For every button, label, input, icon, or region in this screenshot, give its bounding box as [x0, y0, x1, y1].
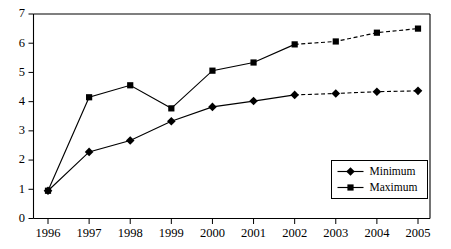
- y-tick-label: 4: [19, 94, 26, 108]
- data-point-marker-square: [292, 41, 298, 47]
- x-tick-label: 2003: [323, 226, 348, 240]
- legend-label: Minimum: [370, 165, 416, 177]
- y-tick-label: 2: [19, 152, 25, 166]
- x-tick-label: 2001: [241, 226, 266, 240]
- data-point-marker-square: [374, 30, 380, 36]
- data-point-marker-square: [86, 94, 92, 100]
- y-tick-label: 0: [19, 211, 25, 225]
- y-tick-label: 7: [19, 6, 25, 20]
- x-tick-label: 2002: [282, 226, 307, 240]
- data-point-marker-square: [168, 105, 174, 111]
- x-tick-label: 1999: [159, 226, 184, 240]
- y-tick-label: 5: [19, 65, 25, 79]
- chart-canvas: 01234567 1996199719981999200020012002200…: [0, 0, 451, 249]
- x-tick-label: 1997: [77, 226, 102, 240]
- data-point-marker-square: [209, 68, 215, 74]
- line-chart: 01234567 1996199719981999200020012002200…: [0, 0, 451, 249]
- y-tick-label: 3: [19, 123, 25, 137]
- data-point-marker-square: [45, 188, 51, 194]
- x-tick-label: 2004: [364, 226, 390, 240]
- x-tick-label: 2000: [200, 226, 225, 240]
- data-point-marker-square: [415, 26, 421, 32]
- y-tick-label: 1: [19, 182, 25, 196]
- data-point-marker-square: [333, 38, 339, 44]
- data-point-marker-square: [127, 82, 133, 88]
- x-tick-label: 1996: [36, 226, 61, 240]
- y-tick-label: 6: [19, 36, 25, 50]
- x-tick-label: 2005: [406, 226, 431, 240]
- legend-label: Maximum: [370, 181, 418, 193]
- chart-background: [0, 0, 451, 249]
- data-point-marker-square: [347, 184, 353, 190]
- data-point-marker-square: [250, 59, 256, 65]
- chart-legend: MinimumMaximum: [332, 161, 428, 199]
- x-tick-label: 1998: [118, 226, 143, 240]
